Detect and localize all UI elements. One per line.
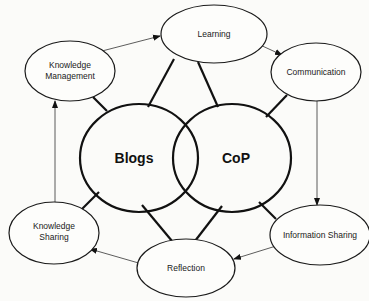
link-cop-communication [266, 95, 287, 117]
link-blogs-knowledge-management [93, 97, 107, 111]
core-blogs: Blogs [80, 104, 198, 212]
node-knowledge-management: Knowledge Management [25, 41, 115, 101]
node-information-sharing: Information Sharing [270, 205, 369, 265]
core-label-blogs: Blogs [115, 150, 154, 166]
node-communication: Communication [271, 43, 361, 101]
node-label-line2: Management [45, 71, 95, 81]
node-knowledge-sharing: Knowledge Sharing [9, 202, 99, 264]
core-links [81, 59, 287, 241]
link-blogs-learning [148, 59, 174, 107]
link-cop-learning [198, 62, 218, 107]
core-label-cop: CoP [222, 150, 250, 166]
cycle-diagram: Learning Communication Information Shari… [0, 0, 369, 301]
arrow-information-sharing-to-reflection [234, 246, 276, 259]
node-label: Reflection [167, 263, 205, 273]
core-cop: CoP [173, 104, 291, 212]
arrow-km-to-learning [102, 36, 160, 51]
node-label-line1: Knowledge [49, 60, 91, 70]
node-learning: Learning [161, 5, 267, 63]
node-label: Communication [286, 67, 345, 77]
node-reflection: Reflection [137, 239, 235, 297]
node-label-line2: Sharing [39, 232, 69, 242]
node-label: Learning [197, 29, 230, 39]
node-label: Information Sharing [283, 230, 357, 240]
node-label-line1: Knowledge [33, 221, 75, 231]
